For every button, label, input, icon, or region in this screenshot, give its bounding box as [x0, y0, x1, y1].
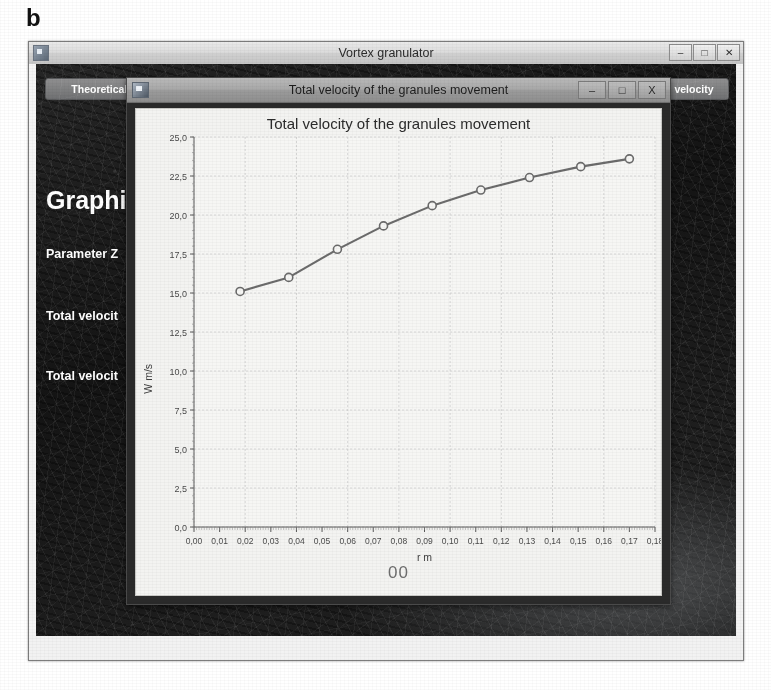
- panel-row-total-velocity-2[interactable]: Total velocit: [46, 369, 118, 383]
- svg-text:0,12: 0,12: [493, 536, 510, 546]
- chart-dialog-window: Total velocity of the granules movement …: [126, 77, 671, 605]
- svg-text:0,02: 0,02: [237, 536, 254, 546]
- svg-text:12,5: 12,5: [169, 328, 187, 338]
- minimize-icon[interactable]: –: [578, 81, 606, 99]
- svg-text:r m: r m: [417, 551, 432, 563]
- svg-text:0,0: 0,0: [174, 523, 187, 533]
- application-titlebar[interactable]: Vortex granulator – □ ✕: [29, 42, 743, 65]
- application-window-controls: – □ ✕: [669, 44, 740, 61]
- close-icon[interactable]: ✕: [717, 44, 740, 61]
- svg-text:15,0: 15,0: [169, 289, 187, 299]
- svg-text:25,0: 25,0: [169, 133, 187, 143]
- left-margin-strip: [29, 64, 36, 660]
- application-title: Vortex granulator: [29, 42, 743, 64]
- svg-text:7,5: 7,5: [174, 406, 187, 416]
- chart-dialog-window-controls: – □ X: [578, 81, 666, 99]
- svg-text:20,0: 20,0: [169, 211, 187, 221]
- svg-text:0,14: 0,14: [544, 536, 561, 546]
- chart-dialog-icon: [132, 82, 149, 98]
- svg-text:0,18: 0,18: [647, 536, 662, 546]
- svg-text:5,0: 5,0: [174, 445, 187, 455]
- line-chart-plot: 0,02,55,07,510,012,515,017,520,022,525,0…: [136, 109, 662, 596]
- svg-text:0,07: 0,07: [365, 536, 382, 546]
- svg-text:0,03: 0,03: [263, 536, 280, 546]
- right-margin-strip: [736, 64, 743, 660]
- chart-canvas: Total velocity of the granules movement …: [135, 108, 662, 596]
- svg-text:0,16: 0,16: [596, 536, 613, 546]
- close-icon[interactable]: X: [638, 81, 666, 99]
- svg-text:0,01: 0,01: [211, 536, 228, 546]
- svg-text:W m/s: W m/s: [142, 364, 154, 394]
- svg-text:0,10: 0,10: [442, 536, 459, 546]
- svg-text:0,00: 0,00: [186, 536, 203, 546]
- svg-text:0,15: 0,15: [570, 536, 587, 546]
- svg-text:0,11: 0,11: [468, 536, 484, 546]
- minimize-icon[interactable]: –: [669, 44, 692, 61]
- svg-text:17,5: 17,5: [169, 250, 187, 260]
- svg-text:0,09: 0,09: [416, 536, 433, 546]
- svg-text:22,5: 22,5: [169, 172, 187, 182]
- chart-dialog-titlebar[interactable]: Total velocity of the granules movement …: [127, 78, 670, 103]
- svg-text:0,05: 0,05: [314, 536, 331, 546]
- svg-text:0,08: 0,08: [391, 536, 408, 546]
- svg-text:0,04: 0,04: [288, 536, 305, 546]
- maximize-icon[interactable]: □: [608, 81, 636, 99]
- panel-row-total-velocity-1[interactable]: Total velocit: [46, 309, 118, 323]
- panel-row-parameter-z[interactable]: Parameter Z: [46, 247, 118, 261]
- svg-text:2,5: 2,5: [174, 484, 187, 494]
- figure-panel-label: b: [26, 4, 41, 32]
- maximize-icon[interactable]: □: [693, 44, 716, 61]
- svg-text:0,06: 0,06: [339, 536, 356, 546]
- svg-text:0,13: 0,13: [519, 536, 536, 546]
- footer-value-readout: 00: [136, 563, 661, 583]
- application-icon: [33, 45, 49, 61]
- bottom-margin-strip: [29, 636, 743, 660]
- svg-text:10,0: 10,0: [169, 367, 187, 377]
- svg-text:0,17: 0,17: [621, 536, 638, 546]
